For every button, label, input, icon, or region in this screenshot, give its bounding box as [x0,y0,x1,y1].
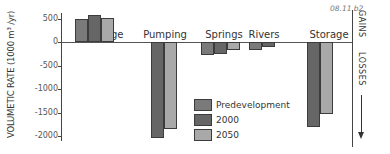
y-tick-mark [58,19,61,20]
legend-item-2000: 2000 [194,114,239,126]
legend-swatch [194,99,212,111]
bar-pumping-2050 [164,42,177,129]
category-label-rivers: Rivers [248,29,279,40]
y-axis-label: VOLUMETIC RATE (1000 m³ /yr) [6,11,16,138]
bar-recharge-2000 [88,15,101,42]
bar-storage-2000 [307,42,320,127]
y-tick-mark [58,136,61,137]
category-label-springs: Springs [205,29,242,40]
legend-item-predevelopment: Predevelopment [194,99,290,111]
losses-arrow-icon [358,132,364,139]
y-tick-label: -2000 [10,131,58,140]
bar-pumping-2000 [151,42,164,138]
legend-label: Predevelopment [216,100,290,110]
bar-recharge-predevelopment [75,19,88,42]
bar-rivers-predevelopment [249,42,262,50]
bar-recharge-2050 [101,18,114,42]
bar-springs-2050 [227,42,240,50]
bar-storage-2050 [320,42,333,114]
legend-swatch [194,129,212,141]
category-label-pumping: Pumping [143,29,187,40]
y-tick-label: 500 [10,14,58,23]
losses-arrow-line [361,95,362,133]
bar-springs-2000 [214,42,227,54]
y-axis-line [61,13,62,141]
gains-losses-divider [352,10,353,147]
y-tick-label: -1000 [10,84,58,93]
bar-springs-predevelopment [201,42,214,55]
y-tick-label: 0 [10,37,58,46]
chart: 08.11.b2 VOLUMETIC RATE (1000 m³ /yr) 50… [0,0,390,154]
legend-item-2050: 2050 [194,129,239,141]
bar-rivers-2000 [262,42,275,47]
gains-label: GAINS [357,10,366,38]
y-tick-mark [58,113,61,114]
y-tick-mark [58,66,61,67]
legend-label: 2000 [216,115,239,125]
legend-label: 2050 [216,130,239,140]
legend-swatch [194,114,212,126]
y-tick-label: -500 [10,61,58,70]
losses-label: LOSSES [357,52,366,86]
category-label-storage: Storage [309,29,348,40]
y-tick-label: -1500 [10,108,58,117]
y-tick-mark [58,89,61,90]
